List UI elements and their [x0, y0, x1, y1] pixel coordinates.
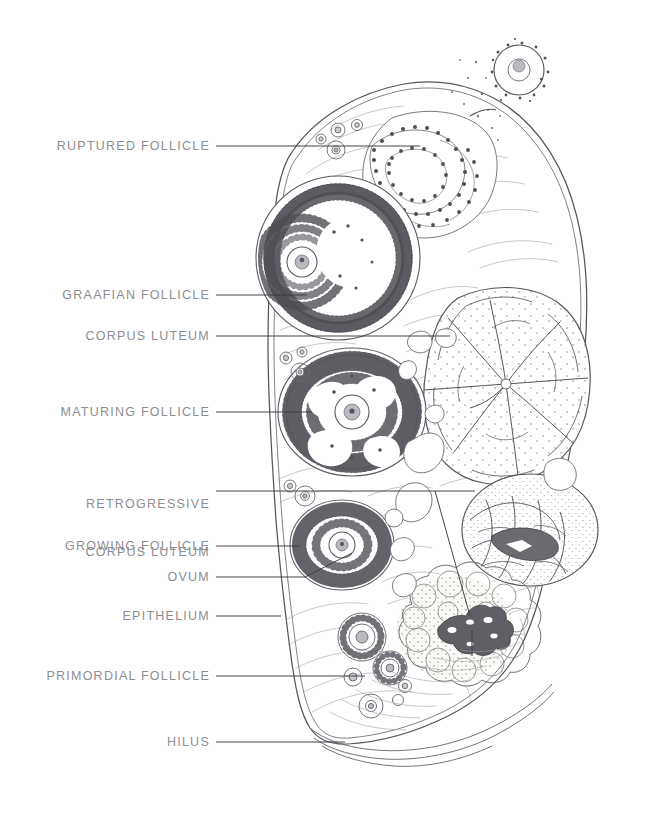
label-primordial-follicle: PRIMORDIAL FOLLICLE: [46, 669, 210, 685]
label-graafian-follicle: GRAAFIAN FOLLICLE: [62, 288, 210, 304]
label-ovum: OVUM: [168, 570, 211, 586]
graafian-follicle-body: [256, 176, 420, 340]
label-maturing-follicle: MATURING FOLLICLE: [60, 405, 210, 421]
label-ruptured-follicle: RUPTURED FOLLICLE: [57, 139, 210, 155]
corpus-luteum-body: [424, 288, 590, 485]
label-hilus: HILUS: [167, 735, 210, 751]
label-corpus-luteum: CORPUS LUTEUM: [85, 329, 210, 345]
label-epithelium: EPITHELIUM: [122, 609, 210, 625]
label-growing-follicle: GROWING FOLLICLE: [65, 539, 210, 555]
